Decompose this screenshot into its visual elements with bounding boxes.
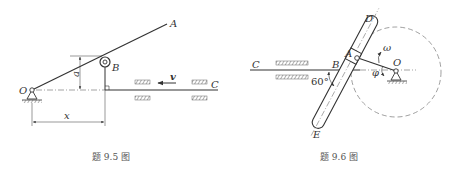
label-B: B <box>331 59 339 70</box>
omega-arrow <box>378 52 381 63</box>
roller-B-pin <box>103 60 107 64</box>
label-v: v <box>170 71 176 82</box>
label-C: C <box>252 59 260 70</box>
pivot-support-O <box>387 69 407 84</box>
diagram-canvas: a x v O A B C 题 9.5 图 <box>0 0 456 173</box>
label-omega: ω <box>383 42 391 53</box>
label-a: a <box>70 71 81 77</box>
caption-9-5: 题 9.5 图 <box>92 152 130 162</box>
caption-9-6: 题 9.6 图 <box>320 152 358 162</box>
label-60deg: 60° <box>311 76 329 87</box>
label-D: D <box>364 13 373 24</box>
label-phi: φ <box>372 67 379 78</box>
pin-A <box>355 56 360 61</box>
label-C: C <box>211 79 219 90</box>
label-x: x <box>64 110 70 121</box>
label-A: A <box>344 48 352 59</box>
figure-9-5: a x v O A B C 题 9.5 图 <box>19 18 219 162</box>
label-O: O <box>19 85 27 96</box>
phi-arc <box>382 66 384 76</box>
label-E: E <box>312 129 321 140</box>
label-B: B <box>111 62 119 73</box>
figure-9-6: ω φ 60° C B A D E O 题 9.6 图 <box>250 6 441 162</box>
label-A: A <box>169 18 177 29</box>
label-O: O <box>393 57 401 68</box>
